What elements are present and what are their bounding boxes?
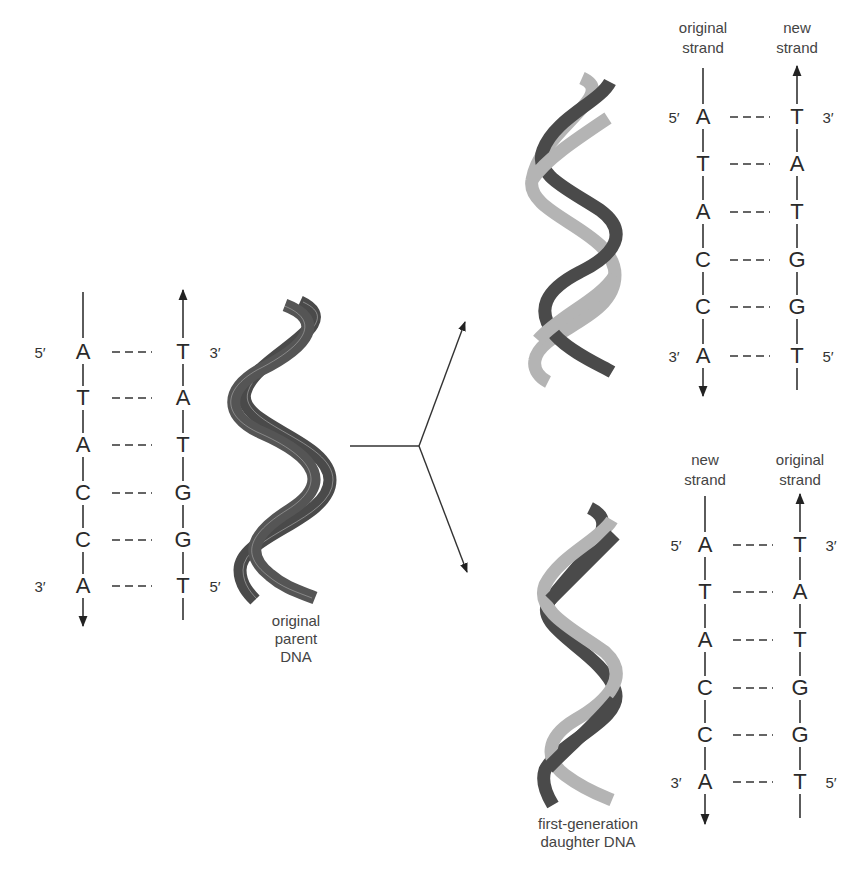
top-left-strand-header: original strand [679, 18, 727, 58]
bottom-right-5prime-label: 5′ [825, 775, 836, 790]
daughter-caption-line: daughter DNA [538, 833, 638, 851]
header-line: original [776, 450, 824, 470]
parent-caption-line: DNA [272, 648, 320, 666]
top-right-base: A [790, 153, 805, 175]
top-left-3prime-label: 3′ [668, 349, 679, 364]
top-right-base: T [790, 201, 803, 223]
top-right-base: T [790, 106, 803, 128]
parent-helix-icon [231, 302, 333, 600]
top-right-base: T [790, 345, 803, 367]
parent-right-base: A [176, 387, 191, 409]
parent-right-base: T [176, 575, 189, 597]
replication-arrows [350, 322, 467, 572]
bottom-left-base: A [698, 629, 713, 651]
parent-left-base: A [76, 341, 91, 363]
bottom-right-base: G [791, 724, 808, 746]
top-right-5prime-label: 5′ [822, 349, 833, 364]
parent-left-base: C [75, 529, 91, 551]
top-right-base: G [788, 249, 805, 271]
parent-ladder [83, 290, 183, 626]
daughter-bottom-ladder [705, 494, 800, 824]
parent-right-3prime-label: 3′ [209, 345, 220, 360]
bottom-left-3prime-label: 3′ [670, 775, 681, 790]
header-line: new [776, 18, 818, 38]
top-left-5prime-label: 5′ [668, 110, 679, 125]
parent-right-base: G [174, 482, 191, 504]
header-line: new [684, 450, 726, 470]
daughter-caption-line: first-generation [538, 815, 638, 833]
bottom-right-base: G [791, 677, 808, 699]
bottom-left-5prime-label: 5′ [670, 538, 681, 553]
daughter-top-ladder [703, 66, 797, 396]
parent-caption-line: parent [272, 630, 320, 648]
header-line: strand [679, 38, 727, 58]
replication-diagram: 5′ 3′ 3′ 5′ A T A C C A T A T G G T orig… [0, 0, 868, 880]
parent-left-5prime-label: 5′ [34, 345, 45, 360]
parent-left-base: C [75, 482, 91, 504]
header-line: strand [684, 470, 726, 490]
parent-caption-line: original [272, 612, 320, 630]
header-line: strand [776, 38, 818, 58]
parent-right-5prime-label: 5′ [209, 579, 220, 594]
top-right-strand-header: new strand [776, 18, 818, 58]
bottom-right-strand-header: original strand [776, 450, 824, 490]
header-line: strand [776, 470, 824, 490]
bottom-left-base: T [698, 581, 711, 603]
parent-left-base: A [76, 575, 91, 597]
daughter-top-helix-icon [532, 78, 616, 382]
bottom-left-base: C [697, 677, 713, 699]
parent-right-base: T [176, 434, 189, 456]
bottom-right-base: T [793, 629, 806, 651]
daughter-bottom-helix-icon [543, 508, 616, 805]
parent-right-base: T [176, 341, 189, 363]
header-line: original [679, 18, 727, 38]
bottom-right-base: T [793, 771, 806, 793]
top-left-base: A [696, 201, 711, 223]
parent-left-3prime-label: 3′ [34, 579, 45, 594]
top-left-base: C [695, 296, 711, 318]
parent-left-base: A [76, 434, 91, 456]
top-left-base: A [696, 106, 711, 128]
daughter-caption: first-generation daughter DNA [538, 815, 638, 851]
top-left-base: T [696, 153, 709, 175]
bottom-right-base: T [793, 534, 806, 556]
top-right-3prime-label: 3′ [822, 110, 833, 125]
bottom-left-base: C [697, 724, 713, 746]
top-left-base: A [696, 345, 711, 367]
bottom-left-strand-header: new strand [684, 450, 726, 490]
diagram-artwork [0, 0, 868, 880]
top-right-base: G [788, 296, 805, 318]
bottom-left-base: A [698, 534, 713, 556]
parent-caption: original parent DNA [272, 612, 320, 666]
bottom-left-base: A [698, 771, 713, 793]
top-left-base: C [695, 249, 711, 271]
parent-right-base: G [174, 529, 191, 551]
bottom-right-base: A [793, 581, 808, 603]
bottom-right-3prime-label: 3′ [825, 538, 836, 553]
parent-left-base: T [76, 387, 89, 409]
